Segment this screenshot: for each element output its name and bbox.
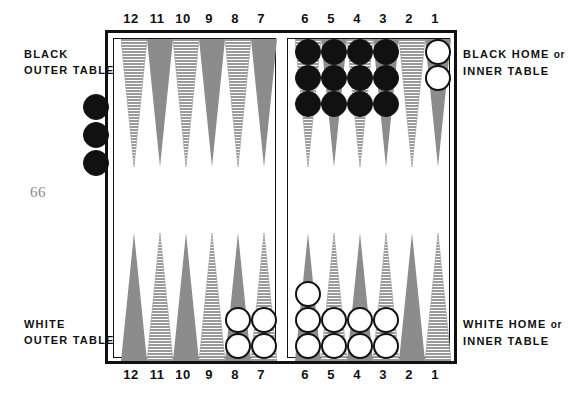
checker-black-point-4[interactable] bbox=[347, 65, 373, 91]
point-2-top[interactable] bbox=[399, 39, 425, 167]
checker-black-point-6[interactable] bbox=[295, 65, 321, 91]
checker-black-point-6[interactable] bbox=[295, 39, 321, 65]
checker-white-point-1[interactable] bbox=[425, 65, 451, 91]
caption-black-home-text: BLACK HOME bbox=[463, 48, 550, 60]
point-10-bottom[interactable] bbox=[173, 233, 199, 361]
point-10-top[interactable] bbox=[173, 39, 199, 167]
checker-white-point-6[interactable] bbox=[295, 307, 321, 333]
point-11-top[interactable] bbox=[147, 39, 173, 167]
top-point-number-6: 6 bbox=[292, 10, 318, 28]
bottom-point-number-2: 2 bbox=[396, 366, 422, 384]
checker-black-point-5[interactable] bbox=[321, 39, 347, 65]
checker-white-point-4[interactable] bbox=[347, 333, 373, 359]
checker-white-point-6[interactable] bbox=[295, 281, 321, 307]
bottom-point-numbers: 121110987654321 bbox=[0, 366, 585, 384]
top-point-number-1: 1 bbox=[422, 10, 448, 28]
checker-white-point-3[interactable] bbox=[373, 333, 399, 359]
top-point-number-2: 2 bbox=[396, 10, 422, 28]
caption-black-outer-line1: BLACK bbox=[24, 46, 115, 62]
point-11-bottom[interactable] bbox=[147, 233, 173, 361]
top-point-numbers: 121110987654321 bbox=[0, 10, 585, 28]
caption-white-home-text: WHITE HOME bbox=[463, 318, 547, 330]
checker-black-point-3[interactable] bbox=[373, 91, 399, 117]
checker-black-point-5[interactable] bbox=[321, 65, 347, 91]
checker-white-point-8[interactable] bbox=[225, 307, 251, 333]
bottom-point-number-4: 4 bbox=[344, 366, 370, 384]
checker-white-point-5[interactable] bbox=[321, 333, 347, 359]
top-point-number-9: 9 bbox=[196, 10, 222, 28]
checker-white-point-1[interactable] bbox=[425, 39, 451, 65]
point-9-bottom[interactable] bbox=[199, 233, 225, 361]
point-7-top[interactable] bbox=[251, 39, 277, 167]
checker-white-point-7[interactable] bbox=[251, 333, 277, 359]
top-point-number-10: 10 bbox=[170, 10, 196, 28]
caption-black-home-line1: BLACK HOME or bbox=[463, 46, 565, 63]
point-2-bottom[interactable] bbox=[399, 233, 425, 361]
top-point-number-4: 4 bbox=[344, 10, 370, 28]
bottom-point-number-9: 9 bbox=[196, 366, 222, 384]
checker-black-point-4[interactable] bbox=[347, 91, 373, 117]
top-point-number-3: 3 bbox=[370, 10, 396, 28]
caption-white-home-or: or bbox=[551, 319, 562, 330]
backgammon-board bbox=[105, 30, 457, 364]
checker-white-point-7[interactable] bbox=[251, 307, 277, 333]
checker-black-point-4[interactable] bbox=[347, 39, 373, 65]
bottom-point-number-12: 12 bbox=[118, 366, 144, 384]
off-board-checker-black[interactable] bbox=[83, 150, 109, 176]
checker-black-point-5[interactable] bbox=[321, 91, 347, 117]
top-point-number-12: 12 bbox=[118, 10, 144, 28]
checker-black-point-6[interactable] bbox=[295, 91, 321, 117]
bottom-point-number-11: 11 bbox=[144, 366, 170, 384]
checker-white-point-5[interactable] bbox=[321, 307, 347, 333]
top-point-number-7: 7 bbox=[248, 10, 274, 28]
point-12-bottom[interactable] bbox=[121, 233, 147, 361]
bottom-point-number-10: 10 bbox=[170, 366, 196, 384]
point-9-top[interactable] bbox=[199, 39, 225, 167]
bottom-point-number-8: 8 bbox=[222, 366, 248, 384]
checker-white-point-8[interactable] bbox=[225, 333, 251, 359]
caption-white-outer-table: WHITE OUTER TABLE bbox=[24, 316, 115, 348]
bottom-point-number-6: 6 bbox=[292, 366, 318, 384]
caption-black-outer-table: BLACK OUTER TABLE bbox=[24, 46, 115, 78]
off-board-checker-black[interactable] bbox=[83, 94, 109, 120]
top-point-number-8: 8 bbox=[222, 10, 248, 28]
caption-white-outer-line1: WHITE bbox=[24, 316, 115, 332]
bottom-point-number-1: 1 bbox=[422, 366, 448, 384]
caption-black-outer-line2: OUTER TABLE bbox=[24, 62, 115, 78]
caption-black-home-or: or bbox=[554, 49, 565, 60]
caption-white-home-line1: WHITE HOME or bbox=[463, 316, 562, 333]
checker-black-point-3[interactable] bbox=[373, 65, 399, 91]
caption-white-home-line2: INNER TABLE bbox=[463, 333, 562, 349]
point-1-bottom[interactable] bbox=[425, 233, 451, 361]
checker-white-point-3[interactable] bbox=[373, 307, 399, 333]
checker-white-point-4[interactable] bbox=[347, 307, 373, 333]
point-12-top[interactable] bbox=[121, 39, 147, 167]
off-board-checker-black[interactable] bbox=[83, 122, 109, 148]
caption-white-home-table: WHITE HOME or INNER TABLE bbox=[463, 316, 562, 349]
caption-white-outer-line2: OUTER TABLE bbox=[24, 332, 115, 348]
page-number: 66 bbox=[30, 184, 46, 201]
point-8-top[interactable] bbox=[225, 39, 251, 167]
checker-black-point-3[interactable] bbox=[373, 39, 399, 65]
top-point-number-11: 11 bbox=[144, 10, 170, 28]
caption-black-home-table: BLACK HOME or INNER TABLE bbox=[463, 46, 565, 79]
bottom-point-number-7: 7 bbox=[248, 366, 274, 384]
top-point-number-5: 5 bbox=[318, 10, 344, 28]
checker-white-point-6[interactable] bbox=[295, 333, 321, 359]
bottom-point-number-3: 3 bbox=[370, 366, 396, 384]
caption-black-home-line2: INNER TABLE bbox=[463, 63, 565, 79]
bottom-point-number-5: 5 bbox=[318, 366, 344, 384]
